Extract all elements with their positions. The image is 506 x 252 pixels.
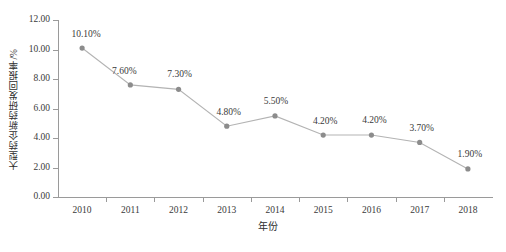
y-tick-label: 4.00 — [33, 133, 50, 143]
x-axis-title: 年份 — [0, 222, 506, 232]
x-tick-label: 2018 — [458, 206, 477, 216]
data-point-marker — [465, 166, 470, 171]
y-tick-label: 0.00 — [33, 192, 50, 202]
data-point-label: 3.70% — [409, 124, 434, 134]
y-tick-label: 10.00 — [29, 45, 50, 55]
chart-figure: 大型药企新药研发回报率/% 0.002.004.006.008.0010.001… — [0, 0, 506, 252]
y-axis-title-label: 大型药企新药研发回报率/% — [10, 49, 20, 170]
x-tick-mark — [203, 197, 204, 202]
data-point-marker — [224, 124, 229, 129]
data-point-marker — [272, 113, 277, 118]
x-tick-mark — [396, 197, 397, 202]
data-point-marker — [128, 82, 133, 87]
x-tick-mark — [154, 197, 155, 202]
data-point-label: 4.20% — [362, 116, 387, 126]
data-point-label: 7.30% — [167, 70, 192, 80]
y-tick-label: 2.00 — [33, 163, 50, 173]
x-tick-mark — [347, 197, 348, 202]
x-axis-line — [58, 197, 493, 198]
x-tick-mark — [106, 197, 107, 202]
x-tick-label: 2017 — [410, 206, 429, 216]
x-tick-label: 2016 — [362, 206, 381, 216]
y-axis-title: 大型药企新药研发回报率/% — [8, 20, 22, 198]
plot-area: 0.002.004.006.008.0010.0012.00 10.10%7.6… — [58, 20, 492, 197]
y-tick-label: 6.00 — [33, 104, 50, 114]
data-point-label: 4.80% — [216, 108, 241, 118]
y-tick-mark — [53, 197, 58, 198]
data-point-marker — [80, 45, 85, 50]
data-point-label: 5.50% — [264, 96, 289, 106]
data-point-marker — [369, 132, 374, 137]
data-point-label: 10.10% — [71, 30, 100, 40]
y-tick-label: 12.00 — [29, 15, 50, 25]
data-point-label: 1.90% — [458, 149, 483, 159]
x-tick-mark — [251, 197, 252, 202]
data-point-marker — [176, 87, 181, 92]
series-line — [82, 48, 468, 169]
x-tick-mark — [299, 197, 300, 202]
y-tick-label: 8.00 — [33, 74, 50, 84]
series-line-group — [58, 20, 492, 197]
x-axis-title-label: 年份 — [258, 221, 278, 232]
data-point-label: 7.60% — [112, 66, 137, 76]
data-point-label: 4.20% — [313, 117, 338, 127]
x-tick-label: 2012 — [169, 206, 188, 216]
data-point-marker — [417, 140, 422, 145]
x-tick-label: 2013 — [217, 206, 236, 216]
x-tick-label: 2014 — [266, 206, 285, 216]
data-point-marker — [321, 132, 326, 137]
x-tick-mark — [444, 197, 445, 202]
x-tick-label: 2011 — [121, 206, 140, 216]
x-tick-label: 2010 — [73, 206, 92, 216]
x-tick-label: 2015 — [314, 206, 333, 216]
